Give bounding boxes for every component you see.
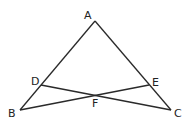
- label-d: D: [31, 75, 39, 88]
- segment-ab: [20, 21, 95, 110]
- label-e: E: [152, 76, 159, 89]
- triangle-diagram: A B C D E F: [0, 0, 190, 129]
- segment-be: [20, 85, 149, 110]
- segment-ac: [95, 21, 171, 110]
- label-b: B: [8, 107, 16, 120]
- label-a: A: [84, 9, 92, 22]
- label-c: C: [174, 107, 182, 120]
- label-f: F: [92, 97, 98, 110]
